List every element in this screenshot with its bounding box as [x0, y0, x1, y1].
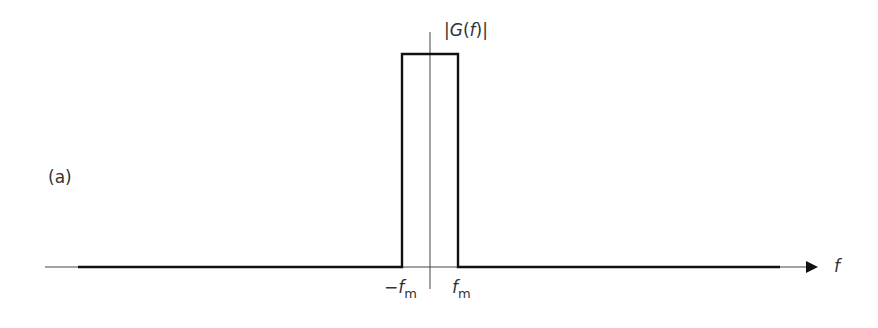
spectrum-curve: [78, 54, 780, 267]
tick-subscript: m: [458, 286, 471, 301]
tick-subscript: m: [404, 286, 417, 301]
func-name: G: [450, 20, 463, 40]
tick-label-pos-fm: fm: [452, 277, 471, 297]
x-axis-arrow-icon: [806, 261, 818, 273]
y-axis-label: |G(f)|: [444, 20, 488, 40]
paren-open: (: [463, 20, 470, 40]
spectrum-diagram: [0, 0, 878, 328]
minus-sign: −: [384, 277, 398, 297]
x-axis-label: f: [834, 256, 840, 276]
tick-label-neg-fm: −fm: [384, 277, 417, 297]
paren-close: )|: [476, 20, 488, 40]
panel-label: (a): [48, 167, 72, 187]
